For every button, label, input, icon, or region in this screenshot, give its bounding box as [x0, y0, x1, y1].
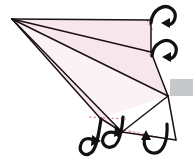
fold-line-top-edge: [12, 19, 151, 20]
origami-figure: Origami fold step diagram: [0, 0, 193, 168]
origami-diagram-root: Origami fold step diagram: [0, 0, 193, 168]
gray-bar: [170, 79, 193, 96]
